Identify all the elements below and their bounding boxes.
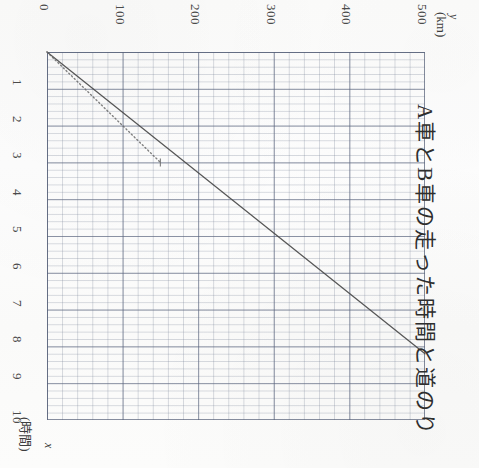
plot-lines bbox=[0, 0, 479, 468]
graph-sheet: 0100200300400500 12345678910 y (km) x (時… bbox=[0, 0, 479, 468]
y-tick-300: 300 bbox=[263, 4, 279, 25]
x-tick-3: 3 bbox=[9, 152, 25, 159]
y-tick-0: 0 bbox=[36, 4, 52, 11]
series-line-A車 bbox=[47, 52, 425, 354]
y-tick-200: 200 bbox=[187, 4, 203, 25]
y-tick-400: 400 bbox=[338, 4, 354, 25]
x-tick-9: 9 bbox=[9, 373, 25, 380]
x-tick-5: 5 bbox=[9, 226, 25, 233]
x-tick-7: 7 bbox=[9, 300, 25, 307]
x-tick-4: 4 bbox=[9, 189, 25, 196]
x-tick-2: 2 bbox=[9, 116, 25, 123]
x-tick-6: 6 bbox=[9, 263, 25, 270]
y-tick-500: 500 bbox=[414, 4, 430, 25]
y-tick-100: 100 bbox=[112, 4, 128, 25]
chart-title: A車とB車の走った時間と道のり bbox=[412, 104, 442, 436]
series-line-B車 bbox=[47, 52, 160, 162]
x-axis-unit: (時間) bbox=[17, 417, 36, 452]
x-tick-8: 8 bbox=[9, 336, 25, 343]
y-axis-unit: (km) bbox=[433, 12, 449, 37]
x-axis-symbol: x bbox=[41, 443, 56, 448]
x-tick-1: 1 bbox=[9, 79, 25, 86]
